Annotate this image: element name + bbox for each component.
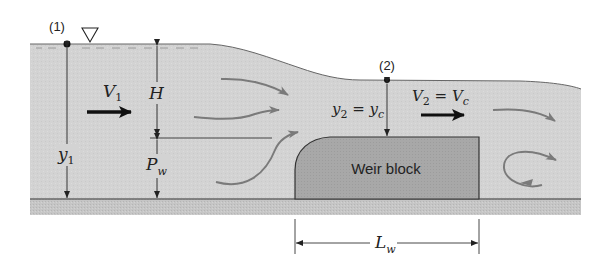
channel-bed — [30, 199, 581, 215]
weir-diagram: Weir block (1) y1 H Pw V1 (2) y2 = yc V2… — [0, 0, 606, 278]
point-1-label: (1) — [49, 19, 65, 34]
weir-block-label: Weir block — [351, 160, 421, 177]
point-1-marker — [64, 41, 71, 48]
V2-equals-Vc-label: V2 = Vc — [412, 87, 469, 108]
y2-equals-yc-label: y2 = yc — [331, 100, 384, 121]
free-surface-triangle-icon — [82, 28, 98, 42]
Lw-label: Lw — [374, 232, 396, 256]
point-2-label: (2) — [379, 58, 395, 73]
point-2-marker — [384, 77, 390, 83]
H-label: H — [148, 83, 165, 103]
